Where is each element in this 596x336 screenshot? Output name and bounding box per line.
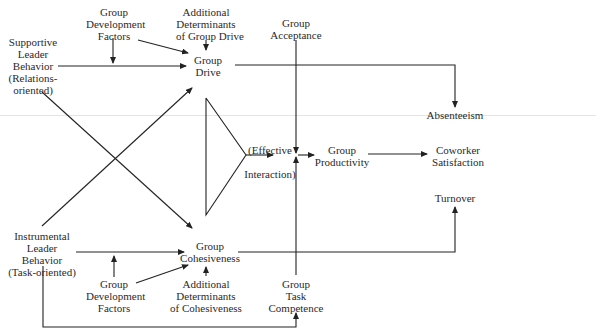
node-line: Group (266, 17, 326, 29)
node-turnover: Turnover (432, 192, 478, 204)
node-line: Development (86, 290, 142, 302)
node-line: Factors (86, 302, 142, 314)
node-supportive-leader-behavior: Supportive Leader Behavior (Relations- o… (8, 36, 58, 96)
node-line: Determinants (170, 290, 242, 302)
node-line: Group (266, 278, 326, 290)
node-line: Satisfaction (430, 156, 486, 168)
node-group-task-competence: Group Task Competence (266, 278, 326, 314)
node-effective-interaction: (Effective Interaction) (244, 138, 296, 186)
node-instrumental-leader-behavior: Instrumental Leader Behavior (Task-orien… (6, 230, 78, 278)
node-group-development-factors-top: Group Development Factors (86, 6, 142, 42)
node-group-cohesiveness: Group Cohesiveness (180, 240, 240, 264)
node-line: Drive (188, 66, 228, 78)
arrow-cohesiveness-to-turnover (238, 207, 455, 252)
node-line: of Group Drive (176, 30, 236, 42)
node-line: Behavior (8, 60, 58, 72)
node-group-drive: Group Drive (188, 54, 228, 78)
node-line: Group (180, 240, 240, 252)
arrow-instrumental-to-drive (42, 88, 192, 226)
node-line: Additional (176, 6, 236, 18)
node-line: Additional (170, 278, 242, 290)
node-line: (Task-oriented) (6, 266, 78, 278)
node-line: Group (188, 54, 228, 66)
node-line: Group (86, 278, 142, 290)
arrow-supportive-to-cohesiveness (42, 92, 192, 228)
node-line: oriented) (8, 84, 58, 96)
node-additional-determinants-drive: Additional Determinants of Group Drive (176, 6, 236, 42)
node-coworker-satisfaction: Coworker Satisfaction (430, 144, 486, 168)
node-line: Cohesiveness (180, 252, 240, 264)
node-line: Leader (8, 48, 58, 60)
node-line: Development (86, 18, 142, 30)
node-line: Acceptance (266, 29, 326, 41)
node-line: Leader (6, 242, 78, 254)
node-group-development-factors-bottom: Group Development Factors (86, 278, 142, 314)
node-line: Factors (86, 30, 142, 42)
node-line: Interaction) (244, 162, 296, 186)
node-additional-determinants-cohesiveness: Additional Determinants of Cohesiveness (170, 278, 242, 314)
node-group-acceptance: Group Acceptance (266, 17, 326, 41)
node-line: Determinants (176, 18, 236, 30)
node-line: Behavior (6, 254, 78, 266)
node-line: of Cohesiveness (170, 302, 242, 314)
node-line: Absenteeism (425, 109, 485, 121)
merge-triangle (206, 98, 246, 215)
node-line: Supportive (8, 36, 58, 48)
node-line: (Effective (244, 138, 296, 162)
node-line: Instrumental (6, 230, 78, 242)
node-line: Group (86, 6, 142, 18)
node-line: Coworker (430, 144, 486, 156)
node-line: Group (314, 144, 370, 156)
arrow-drive-to-absenteeism (235, 65, 455, 107)
node-group-productivity: Group Productivity (314, 144, 370, 168)
node-line: (Relations- (8, 72, 58, 84)
node-line: Productivity (314, 156, 370, 168)
node-line: Turnover (432, 192, 478, 204)
node-line: Competence (266, 302, 326, 314)
node-absenteeism: Absenteeism (425, 109, 485, 121)
node-line: Task (266, 290, 326, 302)
